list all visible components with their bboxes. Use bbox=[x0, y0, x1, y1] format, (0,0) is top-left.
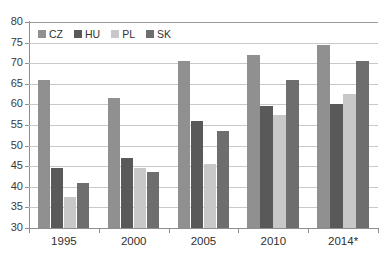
bar-sk-2014star bbox=[356, 61, 369, 228]
bar-cz-2005 bbox=[178, 61, 191, 228]
legend-label: PL bbox=[122, 29, 135, 39]
legend-swatch-icon bbox=[146, 30, 154, 38]
y-axis-tick-label: 50 bbox=[0, 140, 23, 151]
legend-label: HU bbox=[85, 29, 100, 39]
category-separator bbox=[99, 228, 100, 233]
bar-cz-2000 bbox=[108, 98, 121, 228]
category-label-2005: 2005 bbox=[169, 235, 239, 248]
legend-item-hu[interactable]: HU bbox=[74, 29, 100, 39]
chart-legend: CZHUPLSK bbox=[38, 29, 171, 39]
category-label-2010: 2010 bbox=[238, 235, 308, 248]
bar-pl-2000 bbox=[134, 168, 147, 228]
category-separator bbox=[308, 228, 309, 233]
plot-area bbox=[29, 22, 378, 228]
category-separator bbox=[238, 228, 239, 233]
legend-swatch-icon bbox=[74, 30, 82, 38]
bar-hu-2010 bbox=[260, 106, 273, 228]
bar-pl-1995 bbox=[64, 197, 77, 228]
gridline bbox=[29, 43, 378, 44]
category-label-2000: 2000 bbox=[99, 235, 169, 248]
legend-item-pl[interactable]: PL bbox=[111, 29, 135, 39]
y-axis-tick-label: 30 bbox=[0, 222, 23, 233]
bar-hu-2005 bbox=[191, 121, 204, 228]
legend-label: CZ bbox=[49, 29, 63, 39]
y-axis-tick-label: 65 bbox=[0, 78, 23, 89]
bar-cz-2014star bbox=[317, 45, 330, 228]
x-axis-line bbox=[29, 228, 379, 229]
category-separator bbox=[378, 228, 379, 233]
bar-sk-2010 bbox=[286, 80, 299, 228]
bar-hu-1995 bbox=[51, 168, 64, 228]
y-axis-tick-label: 70 bbox=[0, 57, 23, 68]
legend-swatch-icon bbox=[38, 30, 46, 38]
y-axis-tick-label: 35 bbox=[0, 201, 23, 212]
bar-cz-2010 bbox=[247, 55, 260, 228]
bar-chart: 8075706560555045403530 19952000200520102… bbox=[0, 0, 390, 258]
category-separator bbox=[29, 228, 30, 233]
bar-pl-2014star bbox=[343, 94, 356, 228]
bar-cz-1995 bbox=[38, 80, 51, 228]
y-axis-tick-label: 75 bbox=[0, 37, 23, 48]
bar-sk-1995 bbox=[77, 183, 90, 228]
bar-sk-2005 bbox=[217, 131, 230, 228]
legend-label: SK bbox=[157, 29, 171, 39]
y-axis-tick-label: 55 bbox=[0, 119, 23, 130]
bar-sk-2000 bbox=[147, 172, 160, 228]
legend-item-cz[interactable]: CZ bbox=[38, 29, 63, 39]
plot-top-frame bbox=[29, 22, 378, 23]
category-label-1995: 1995 bbox=[29, 235, 99, 248]
bar-pl-2010 bbox=[273, 115, 286, 228]
bar-hu-2014star bbox=[330, 104, 343, 228]
legend-item-sk[interactable]: SK bbox=[146, 29, 171, 39]
bar-hu-2000 bbox=[121, 158, 134, 228]
y-axis-tick-label: 40 bbox=[0, 181, 23, 192]
y-axis-tick-label: 80 bbox=[0, 16, 23, 27]
y-axis-tick-label: 60 bbox=[0, 98, 23, 109]
y-axis-tick-label: 45 bbox=[0, 160, 23, 171]
bar-pl-2005 bbox=[204, 164, 217, 228]
legend-swatch-icon bbox=[111, 30, 119, 38]
category-separator bbox=[169, 228, 170, 233]
category-label-2014star: 2014* bbox=[308, 235, 378, 248]
